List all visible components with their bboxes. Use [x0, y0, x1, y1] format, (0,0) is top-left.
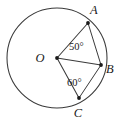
point-label-B: B — [106, 62, 114, 76]
angle-label-AOB: 50° — [69, 41, 84, 52]
point-label-C: C — [74, 106, 83, 120]
angle-label-BOC: 60° — [67, 77, 82, 88]
geometry-figure: O A B C 50° 60° — [0, 0, 122, 124]
point-label-O: O — [35, 51, 44, 65]
vertex-dot-C — [77, 96, 81, 100]
vertex-dot-B — [99, 63, 103, 67]
figure-canvas: O A B C 50° 60° — [0, 0, 122, 124]
chord-BC — [79, 65, 101, 98]
vertex-dot-O — [55, 56, 59, 60]
point-label-A: A — [89, 3, 98, 17]
radius-OB — [57, 58, 101, 65]
chord-AB — [88, 23, 101, 65]
vertex-dot-A — [86, 21, 90, 25]
